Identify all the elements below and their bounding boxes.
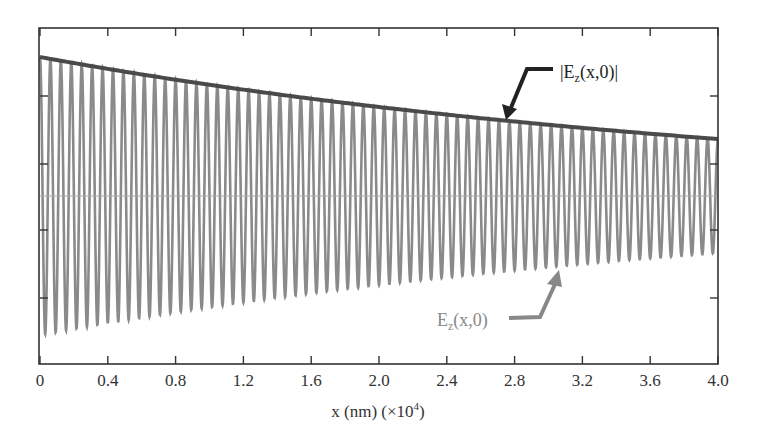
envelope-annotation: |Ez(x,0)| <box>502 62 618 120</box>
oscillation-annotation: Ez(x,0) <box>437 270 562 333</box>
chart: 00.40.81.21.62.02.42.83.23.64.0 |Ez(x,0)… <box>0 0 762 446</box>
x-tick-label: 1.6 <box>301 371 322 390</box>
arrow-icon <box>509 282 556 318</box>
x-tick-label: 3.2 <box>572 371 593 390</box>
x-tick-label: 3.6 <box>640 371 661 390</box>
x-tick-label: 1.2 <box>233 371 254 390</box>
x-tick-label: 2.8 <box>504 371 525 390</box>
svg-text:Ez(x,0): Ez(x,0) <box>437 310 488 333</box>
svg-text:|Ez(x,0)|: |Ez(x,0)| <box>560 62 618 85</box>
x-tick-label: 4.0 <box>707 371 728 390</box>
x-axis-title: x (nm) (×104) <box>331 400 424 421</box>
arrow-icon <box>510 69 553 110</box>
x-tick-label: 2.4 <box>436 371 458 390</box>
x-tick-label: 2.0 <box>368 371 389 390</box>
arrowhead-icon <box>547 270 562 287</box>
x-tick-label: 0 <box>36 371 45 390</box>
x-tick-label: 0.4 <box>97 371 119 390</box>
x-tick-label: 0.8 <box>165 371 186 390</box>
